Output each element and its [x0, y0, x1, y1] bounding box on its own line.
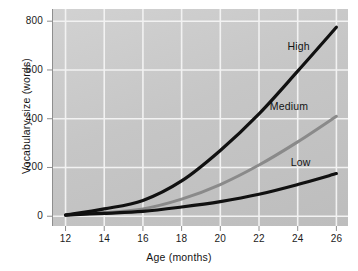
series-label-low: Low: [291, 156, 311, 168]
x-tick-label: 18: [170, 234, 194, 244]
series-label-high: High: [287, 40, 309, 52]
x-tick-label: 26: [324, 234, 348, 244]
x-tick-label: 24: [286, 234, 310, 244]
y-tick-label: 0: [37, 211, 43, 221]
series-label-medium: Medium: [270, 100, 309, 112]
x-tick-label: 14: [92, 234, 116, 244]
x-tick-label: 16: [131, 234, 155, 244]
x-axis-tick-labels: 1214161820222426: [0, 234, 358, 248]
x-tick-label: 22: [247, 234, 271, 244]
x-axis-title: Age (months): [0, 251, 358, 263]
y-axis-title: Vocabulary size (words): [20, 16, 32, 216]
x-tick-label: 20: [208, 234, 232, 244]
x-tick-label: 12: [54, 234, 78, 244]
chart-figure: 0200400600800 1214161820222426 HighMediu…: [0, 0, 358, 271]
